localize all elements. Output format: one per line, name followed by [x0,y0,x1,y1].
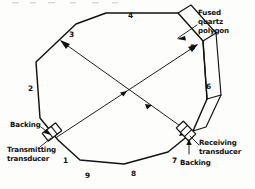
facet-number-2: 2 [28,84,33,93]
transmitting-transducer-label-line1: Transmitting [7,145,56,154]
facet-number-9: 9 [85,171,90,180]
facet-number-1: 1 [63,156,68,165]
backing-right-label: Backing [180,158,211,167]
receiving-transducer-label-line2: transducer [199,147,242,156]
facet-number-8: 8 [131,169,136,178]
facet-number-4: 4 [128,11,133,20]
facet-number-5: 5 [190,43,195,52]
facet-number-6: 6 [206,82,211,91]
receiving-transducer-label-line1: Receiving [199,138,237,147]
fused-quartz-label-line2: quartz [198,17,223,26]
fused-quartz-label-line1: Fused [198,8,221,17]
receiving-transducer[interactable] [176,121,196,141]
facet-number-3: 3 [69,30,74,39]
facet-number-7: 7 [172,156,177,165]
transmitting-transducer-label-line2: transducer [7,154,50,163]
scan-artifacts [12,2,118,3]
fused-quartz-label-line3: polygon [198,26,229,35]
backing-left-label: Backing [10,120,41,129]
fused-quartz-polygon-diagram: 1 2 3 4 5 6 7 8 9 Fused quartz polygon B… [0,0,255,189]
